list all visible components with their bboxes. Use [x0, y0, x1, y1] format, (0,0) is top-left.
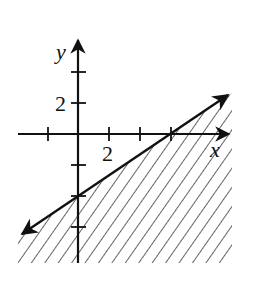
x-axis-label: x: [209, 137, 220, 162]
y-axis-label: y: [54, 39, 66, 64]
y-tick-label-2: 2: [55, 91, 66, 116]
x-tick-label-2: 2: [102, 141, 113, 166]
shaded-region: [18, 93, 232, 263]
inequality-graph: y x 2 2: [0, 0, 253, 286]
